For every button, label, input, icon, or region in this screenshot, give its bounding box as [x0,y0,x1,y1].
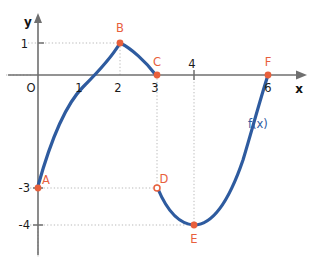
x-tick-label-6: 6 [264,81,271,95]
curve-branch-2 [158,75,268,225]
point-C[interactable] [154,72,161,79]
x-tick-label-2: 2 [114,81,121,95]
point-B[interactable] [117,40,124,47]
point-label-E: E [190,232,197,246]
y-tick-label-minus3: -3 [19,181,30,195]
point-F[interactable] [265,72,272,79]
point-label-C: C [153,55,161,69]
y-axis-label: y [24,15,32,29]
plot-canvas: y x O 1 2 3 4 6 1 -3 -4 B C F A D E f(x) [0,0,315,267]
x-axis-label: x [295,82,303,96]
function-graph-figure: y x O 1 2 3 4 6 1 -3 -4 B C F A D E f(x) [0,0,315,267]
point-E[interactable] [191,222,198,229]
curve-branch-1 [38,43,155,186]
point-label-D: D [160,172,169,186]
y-axis-arrow [34,13,42,23]
y-tick-label-1: 1 [21,37,28,51]
point-label-A: A [42,173,50,187]
point-label-F: F [265,55,272,69]
function-label: f(x) [248,117,268,131]
x-tick-label-4: 4 [188,57,195,71]
x-tick-label-3: 3 [151,81,158,95]
point-label-B: B [116,21,124,35]
x-axis-arrow [296,71,307,80]
point-A[interactable] [35,185,42,192]
y-tick-label-minus4: -4 [19,218,30,232]
x-tick-label-1: 1 [75,81,82,95]
origin-label: O [26,81,35,95]
